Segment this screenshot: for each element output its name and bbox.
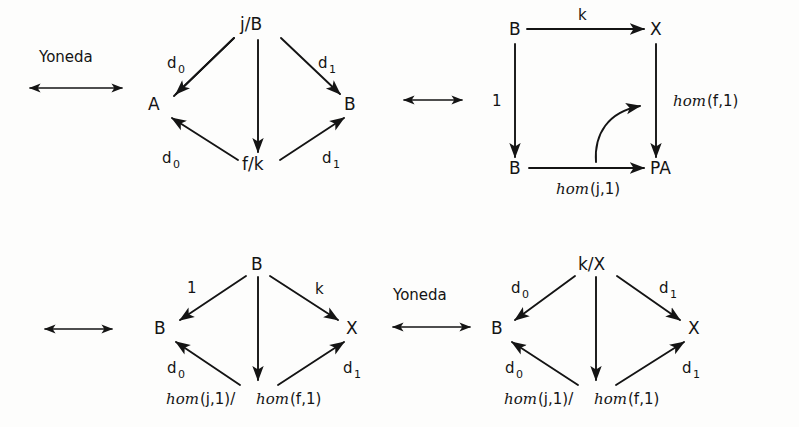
node-bl-bottom-hom2-italic: hom (256, 390, 289, 408)
edge-bl-bottom-to-right (278, 342, 344, 385)
edge-curved-two-cell (596, 106, 640, 162)
edge-label-d0-br-lower-sub: 0 (516, 368, 523, 381)
edge-br-bottom-to-right (616, 342, 684, 385)
edge-bl-top-to-right (270, 276, 338, 320)
connector-top-left: Yoneda (30, 48, 122, 88)
node-B-square-topleft: B (509, 19, 521, 39)
edge-label-homf-upright: (f,1) (707, 92, 738, 110)
yoneda-label-top: Yoneda (38, 48, 93, 66)
edge-label-d1-bl: d (343, 359, 353, 377)
node-X-br-right: X (688, 318, 700, 338)
node-B-br-left: B (491, 318, 503, 338)
edge-label-d1-lower: d (322, 149, 332, 167)
node-bl-bottom-hom2-upright: (f,1) (290, 390, 321, 408)
yoneda-label-bottom: Yoneda (392, 286, 447, 304)
edge-label-d1-upper: d (318, 54, 328, 72)
edge-label-d1-br-lower-sub: 1 (693, 368, 700, 381)
edge-label-d0-bl-sub: 0 (178, 368, 185, 381)
edge-label-homj-upright: (j,1) (590, 180, 620, 198)
node-bl-bottom-hom1-upright: (j,1)/ (200, 390, 236, 408)
edge-label-d1-br-upper: d (659, 279, 669, 297)
node-PA: PA (650, 158, 671, 178)
edge-bl-bottom-to-left (176, 342, 240, 385)
diagram-bottom-left: B B X 1 k d 0 d 1 hom (j,1)/ hom (f,1) (154, 254, 361, 408)
edge-label-d0-bl: d (167, 359, 177, 377)
edge-label-d1-upper-sub: 1 (329, 63, 336, 76)
diagram-svg: Yoneda j/B A B f/k d 0 d 1 d 0 (0, 0, 799, 427)
edge-label-d0-br-upper: d (511, 279, 521, 297)
edge-label-d1-lower-sub: 1 (333, 158, 340, 171)
edge-label-k-square: k (578, 6, 587, 24)
diagram-top-left: j/B A B f/k d 0 d 1 d 0 d 1 (148, 14, 356, 174)
node-B-bl-left: B (154, 318, 166, 338)
node-br-bottom-hom1-upright: (j,1)/ (538, 390, 574, 408)
node-A: A (148, 94, 160, 114)
edge-label-d0-upper: d (167, 54, 177, 72)
node-br-bottom-hom2-italic: hom (594, 390, 627, 408)
node-br-bottom-hom1-italic: hom (504, 390, 537, 408)
edge-label-d0-upper-sub: 0 (178, 63, 185, 76)
edge-label-d1-bl-sub: 1 (354, 368, 361, 381)
node-B-bl-top: B (251, 254, 263, 274)
node-fk: f/k (242, 154, 264, 174)
edge-label-homj-italic: hom (556, 180, 589, 198)
edge-label-d0-lower-sub: 0 (173, 158, 180, 171)
edge-label-d0-br-lower: d (505, 359, 515, 377)
node-kX: k/X (578, 254, 606, 274)
edge-label-d1-br-upper-sub: 1 (670, 288, 677, 301)
node-bl-bottom-hom1-italic: hom (166, 390, 199, 408)
node-X-square-topright: X (650, 19, 662, 39)
edge-label-one-square: 1 (492, 92, 502, 110)
edge-fk-to-A (172, 118, 238, 160)
connector-bottom-middle: Yoneda (392, 286, 470, 327)
edge-label-d1-br-lower: d (682, 359, 692, 377)
node-jB: j/B (239, 14, 262, 34)
diagram-top-right: B X B PA k 1 hom (f,1) hom (j,1) (492, 6, 738, 198)
node-X-bl-right: X (346, 318, 358, 338)
node-B-square-bottomleft: B (509, 158, 521, 178)
edge-label-d0-lower: d (162, 149, 172, 167)
edge-label-k-bl: k (315, 280, 324, 298)
node-br-bottom-hom2-upright: (f,1) (628, 390, 659, 408)
edge-label-homf-italic: hom (673, 92, 706, 110)
diagram-bottom-right: k/X B X d 0 d 1 d 0 d 1 hom (j,1)/ hom ( (491, 254, 700, 408)
node-B-top-left-diagram: B (344, 94, 356, 114)
figure-canvas: Yoneda j/B A B f/k d 0 d 1 d 0 (0, 0, 799, 427)
edge-label-one-bl: 1 (187, 279, 197, 297)
edge-label-d0-br-upper-sub: 0 (522, 288, 529, 301)
edge-fk-to-B (280, 118, 344, 160)
